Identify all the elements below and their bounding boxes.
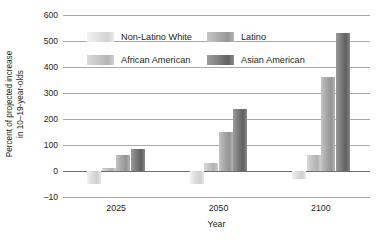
y-axis-tick-label: 100 xyxy=(44,140,58,150)
y-axis-tick-label: −10 xyxy=(43,192,58,202)
y-axis-tick-label: 200 xyxy=(44,114,58,124)
x-axis-tick-label: 2025 xyxy=(106,203,126,213)
plot-area: 6005004003002001000−10 Non-Latino White … xyxy=(63,15,370,197)
legend-label-asian-american: Asian American xyxy=(241,55,305,65)
bar xyxy=(292,171,306,179)
legend-item-african-american: African American xyxy=(87,55,207,65)
bar xyxy=(116,155,130,171)
y-axis-title-line1: Percent of projected increase xyxy=(4,51,15,158)
bar xyxy=(131,149,145,171)
bar xyxy=(307,155,321,171)
y-axis-title-line2: in 10–19-year-olds xyxy=(15,51,26,158)
x-axis-title: Year xyxy=(63,219,370,229)
legend-item-latino: Latino xyxy=(207,32,327,42)
y-axis-tick-label: 400 xyxy=(44,62,58,72)
legend-item-non-latino-white: Non-Latino White xyxy=(87,32,207,42)
bar xyxy=(233,109,247,171)
legend-swatch-icon-non-latino-white xyxy=(87,32,114,42)
x-axis-tick-label: 2050 xyxy=(209,203,229,213)
y-axis-tick-label: 600 xyxy=(44,10,58,20)
y-axis-tick-label: 0 xyxy=(53,166,58,176)
legend-item-asian-american: Asian American xyxy=(207,55,327,65)
gridline--10: −10 xyxy=(63,197,370,198)
legend-swatch-icon-asian-american xyxy=(207,55,234,65)
legend-swatch-icon-latino xyxy=(207,32,234,42)
bar xyxy=(190,171,204,184)
bar xyxy=(87,171,101,184)
legend-label-african-american: African American xyxy=(121,55,190,65)
y-axis-tick-label: 500 xyxy=(44,36,58,46)
bar xyxy=(321,77,335,171)
y-axis-title: Percent of projected increase in 10–19-y… xyxy=(0,18,30,190)
bar xyxy=(219,132,233,171)
bar xyxy=(102,168,116,171)
bar xyxy=(204,163,218,171)
bar-chart-figure: Percent of projected increase in 10–19-y… xyxy=(0,0,378,241)
legend-label-non-latino-white: Non-Latino White xyxy=(121,32,192,42)
legend-swatch-icon-african-american xyxy=(87,55,114,65)
y-axis-tick-label: 300 xyxy=(44,88,58,98)
legend-label-latino: Latino xyxy=(241,32,266,42)
chart-legend: Non-Latino White Latino African American… xyxy=(87,25,337,71)
x-axis-tick-label: 2100 xyxy=(311,203,331,213)
bar xyxy=(336,33,350,171)
